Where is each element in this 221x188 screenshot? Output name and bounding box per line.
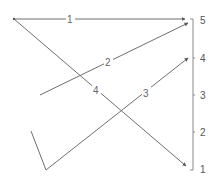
edge-label-1: 1 [67,14,73,25]
vertical-axis [190,19,195,170]
edge-2 [40,23,188,95]
edge-label-2: 2 [105,57,111,68]
tick-label-3: 3 [200,90,206,101]
edge-label-4: 4 [93,85,99,96]
edge-extra [31,131,46,170]
tick-label-4: 4 [200,53,206,64]
start-point [13,18,15,20]
tick-label-2: 2 [200,127,206,138]
diagram-canvas: 5 4 3 2 1 1 2 3 4 [0,0,221,188]
tick-label-1: 1 [200,164,206,175]
edge-3 [46,58,188,170]
edge-label-3: 3 [143,88,149,99]
tick-label-5: 5 [200,15,206,26]
